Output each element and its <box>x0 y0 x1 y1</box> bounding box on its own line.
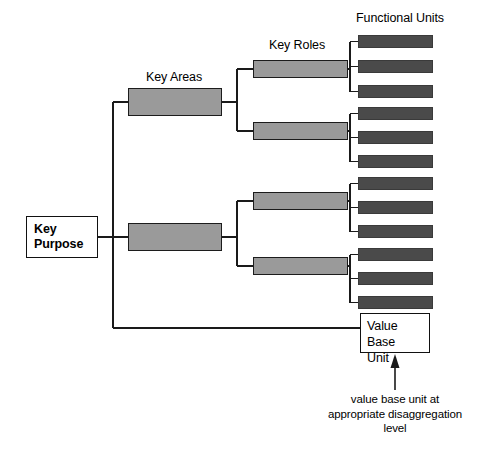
node-functional-unit-3[interactable] <box>358 85 433 98</box>
node-key-area-2[interactable] <box>128 223 222 251</box>
node-functional-unit-11[interactable] <box>358 272 433 285</box>
node-key-purpose-label-line1: Key <box>34 222 57 236</box>
node-functional-unit-7[interactable] <box>358 177 433 190</box>
node-key-role-3[interactable] <box>253 192 348 210</box>
node-functional-unit-8[interactable] <box>358 201 433 214</box>
tier-label-functional-units: Functional Units <box>356 11 444 26</box>
node-key-purpose[interactable]: Key Purpose <box>26 216 98 258</box>
node-functional-unit-9[interactable] <box>358 225 433 238</box>
node-key-purpose-label-line2: Purpose <box>34 237 83 251</box>
node-key-purpose-label: Key Purpose <box>34 222 94 252</box>
node-value-base-unit-label-line1: Value Base <box>367 319 398 349</box>
tier-label-key-areas: Key Areas <box>146 70 202 85</box>
annotation-caption-line3: level <box>383 422 406 434</box>
node-functional-unit-12[interactable] <box>358 296 433 309</box>
node-key-role-2[interactable] <box>253 122 348 140</box>
annotation-caption-line2: appropriate disaggregation <box>328 408 462 420</box>
node-functional-unit-5[interactable] <box>358 131 433 144</box>
annotation-caption: value base unit at appropriate disaggreg… <box>300 392 490 436</box>
node-key-role-1[interactable] <box>253 60 348 78</box>
diagram-canvas: Key Areas Key Roles Functional Units Key… <box>0 0 497 459</box>
node-value-base-unit[interactable]: Value Base Unit <box>360 313 430 353</box>
node-key-area-1[interactable] <box>128 88 222 116</box>
node-key-role-4[interactable] <box>253 257 348 275</box>
node-functional-unit-1[interactable] <box>358 35 433 48</box>
node-functional-unit-4[interactable] <box>358 107 433 120</box>
annotation-caption-line1: value base unit at <box>351 393 439 405</box>
node-functional-unit-10[interactable] <box>358 248 433 261</box>
node-functional-unit-2[interactable] <box>358 60 433 73</box>
node-value-base-unit-label: Value Base Unit <box>367 318 426 366</box>
tier-label-key-roles: Key Roles <box>269 38 325 53</box>
node-functional-unit-6[interactable] <box>358 155 433 168</box>
node-value-base-unit-label-line2: Unit <box>367 351 389 365</box>
